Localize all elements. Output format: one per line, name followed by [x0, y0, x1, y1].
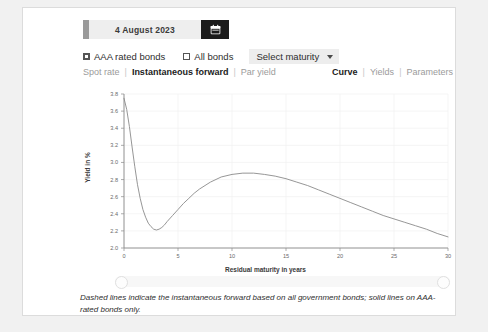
- svg-text:25: 25: [391, 253, 397, 259]
- checkbox-aaa-rated-bonds[interactable]: AAA rated bonds: [83, 51, 165, 62]
- checkbox-all-label: All bonds: [194, 51, 233, 62]
- chevron-down-icon: [327, 55, 333, 59]
- svg-text:2.4: 2.4: [110, 211, 118, 217]
- slider-handle-right[interactable]: [437, 276, 450, 289]
- page-root: 4 August 2023 AAA rated bonds A: [0, 0, 488, 332]
- maturity-range-slider[interactable]: [115, 276, 450, 287]
- svg-text:2.6: 2.6: [110, 194, 118, 200]
- svg-text:3.6: 3.6: [110, 108, 118, 114]
- calendar-icon[interactable]: [201, 20, 229, 39]
- svg-text:5: 5: [176, 253, 179, 259]
- chart-caption: Dashed lines indicate the instantaneous …: [80, 292, 440, 315]
- svg-text:3.2: 3.2: [110, 142, 118, 148]
- filter-row: AAA rated bonds All bonds Select maturit…: [83, 49, 339, 64]
- svg-text:20: 20: [337, 253, 343, 259]
- svg-text:3.8: 3.8: [110, 91, 118, 97]
- checkbox-all-bonds[interactable]: All bonds: [183, 51, 233, 62]
- date-value[interactable]: 4 August 2023: [89, 20, 201, 39]
- nav-item-par-yield[interactable]: Par yield: [241, 67, 276, 77]
- checkbox-aaa-box[interactable]: [83, 53, 90, 60]
- nav-group-curve-type: Spot rate | Instantaneous forward | Par …: [83, 67, 276, 77]
- svg-text:3.0: 3.0: [110, 159, 118, 165]
- svg-text:10: 10: [229, 253, 235, 259]
- nav-item-curve[interactable]: Curve: [332, 67, 358, 77]
- chart-y-ticks: 2.02.22.42.62.83.03.23.43.63.8: [110, 91, 124, 251]
- nav-row: Spot rate | Instantaneous forward | Par …: [83, 67, 453, 77]
- nav-separator: |: [363, 67, 365, 77]
- chart-x-ticks: 051015202530: [122, 248, 451, 259]
- checkbox-aaa-label: AAA rated bonds: [94, 51, 165, 62]
- svg-text:15: 15: [283, 253, 289, 259]
- slider-handle-left[interactable]: [115, 276, 128, 289]
- svg-text:2.8: 2.8: [110, 177, 118, 183]
- chart-gridlines: [124, 94, 448, 248]
- nav-item-spot-rate[interactable]: Spot rate: [83, 67, 120, 77]
- select-maturity-dropdown[interactable]: Select maturity: [249, 49, 339, 64]
- nav-group-view: Curve | Yields | Parameters: [332, 67, 453, 77]
- select-maturity-label: Select maturity: [256, 51, 319, 62]
- date-picker[interactable]: 4 August 2023: [83, 20, 229, 39]
- chart-plot-area: 2.02.22.42.62.83.03.23.43.63.8 051015202…: [78, 86, 453, 264]
- yield-curve-chart: Yield in % 2.02.22.42.62.83.03.23.43.63.…: [78, 86, 453, 276]
- nav-separator: |: [233, 67, 235, 77]
- svg-text:2.0: 2.0: [110, 245, 118, 251]
- nav-item-instantaneous-forward[interactable]: Instantaneous forward: [132, 67, 229, 77]
- svg-text:0: 0: [122, 253, 125, 259]
- nav-separator: |: [125, 67, 127, 77]
- nav-separator: |: [399, 67, 401, 77]
- nav-item-parameters[interactable]: Parameters: [406, 67, 453, 77]
- svg-text:3.4: 3.4: [110, 125, 118, 131]
- svg-text:30: 30: [445, 253, 451, 259]
- svg-text:2.2: 2.2: [110, 228, 118, 234]
- nav-item-yields[interactable]: Yields: [370, 67, 394, 77]
- curve-card: 4 August 2023 AAA rated bonds A: [22, 7, 456, 316]
- chart-x-axis-label: Residual maturity in years: [78, 266, 453, 273]
- checkbox-all-box[interactable]: [183, 53, 190, 60]
